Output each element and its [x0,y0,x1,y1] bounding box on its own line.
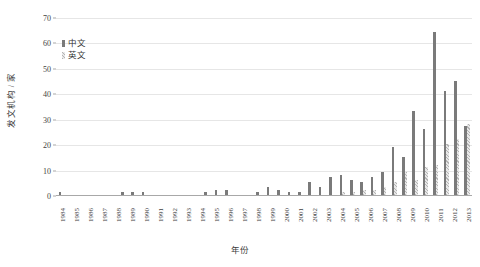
chart-legend: 中文英文 [62,37,86,61]
x-axis-ticks: 1984198519861987198819891990199119921993… [56,199,472,241]
bar-group [87,18,97,195]
bar [288,192,291,195]
x-tick-label: 2010 [423,208,431,222]
x-tick-label: 2012 [451,208,459,222]
x-tick-label: 2009 [409,208,417,222]
bar [215,190,218,195]
bar-group [295,18,305,195]
x-tick: 1992 [168,199,182,241]
y-tick-mark [53,18,56,19]
bar [319,187,322,195]
x-tick-label: 2003 [325,208,333,222]
bar-group [129,18,139,195]
x-tick: 2003 [322,199,336,241]
x-tick: 2005 [350,199,364,241]
bar-group [223,18,233,195]
bar [394,182,397,195]
y-tick-label: 50 [43,64,51,73]
bar-group [285,18,295,195]
bar-group [191,18,201,195]
bar [467,124,470,195]
y-tick-label: 40 [43,90,51,99]
x-tick: 1987 [98,199,112,241]
legend-item[interactable]: 英文 [62,49,86,61]
plot-canvas [56,18,472,196]
x-tick-label: 1998 [255,208,263,222]
bar-group [337,18,347,195]
x-tick-label: 1989 [129,208,137,222]
bar-group [264,18,274,195]
legend-label: 英文 [68,49,86,61]
plot-area: 010203040506070 [56,18,472,196]
bar [121,192,124,195]
y-tick-mark [53,43,56,44]
x-tick: 2012 [448,199,462,241]
bar-group [410,18,420,195]
bar [59,192,62,195]
x-tick-label: 1990 [143,208,151,222]
x-tick-label: 1993 [185,208,193,222]
bar-group [306,18,316,195]
x-tick: 2013 [462,199,476,241]
x-tick-label: 1995 [213,208,221,222]
bar-group [399,18,409,195]
x-tick: 2007 [378,199,392,241]
x-tick-label: 2011 [437,208,445,222]
x-tick: 1991 [154,199,168,241]
x-tick: 1993 [182,199,196,241]
bar [256,192,259,195]
x-tick-label: 1991 [157,208,165,222]
x-tick: 1988 [112,199,126,241]
x-tick-label: 1987 [101,208,109,222]
x-tick: 1985 [70,199,84,241]
y-tick-mark [53,145,56,146]
bar-group [181,18,191,195]
x-tick: 2004 [336,199,350,241]
x-tick: 2001 [294,199,308,241]
x-tick-label: 2008 [395,208,403,222]
legend-label: 中文 [68,37,86,49]
bar-group [254,18,264,195]
bar-group [202,18,212,195]
y-tick-mark [53,68,56,69]
x-tick-label: 1986 [87,208,95,222]
x-tick: 1989 [126,199,140,241]
x-tick: 1986 [84,199,98,241]
x-tick: 2006 [364,199,378,241]
x-tick: 1998 [252,199,266,241]
y-tick-label: 0 [47,192,51,201]
bar-group [316,18,326,195]
bar-group [212,18,222,195]
bar [342,192,345,195]
bar [353,192,356,195]
bar [425,167,428,195]
bar [384,187,387,195]
x-tick-label: 2013 [465,208,473,222]
bar-group [327,18,337,195]
x-tick-label: 1985 [73,208,81,222]
y-tick-mark [53,119,56,120]
x-tick-label: 1999 [269,208,277,222]
y-tick-label: 30 [43,115,51,124]
bar-group [233,18,243,195]
y-axis-title-text: 发文机构 / 家 [4,72,16,128]
bar-group [275,18,285,195]
x-tick-label: 2006 [367,208,375,222]
x-tick: 2010 [420,199,434,241]
bar [298,192,301,195]
bar-group [139,18,149,195]
y-tick-label: 60 [43,39,51,48]
bar-group [150,18,160,195]
x-tick: 2014 [476,199,480,241]
bar-group [368,18,378,195]
x-tick-label: 1996 [227,208,235,222]
bar [415,180,418,195]
legend-item[interactable]: 中文 [62,37,86,49]
x-tick-label: 1984 [59,208,67,222]
x-tick: 1995 [210,199,224,241]
y-axis-title: 发文机构 / 家 [2,0,18,200]
x-tick-label: 2000 [283,208,291,222]
bar-group [118,18,128,195]
x-tick: 1999 [266,199,280,241]
x-tick-label: 2001 [297,208,305,222]
